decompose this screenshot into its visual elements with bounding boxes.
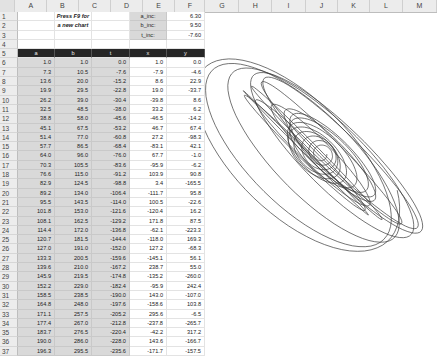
table-cell[interactable]: 317.2 (167, 328, 205, 337)
cell[interactable] (55, 40, 92, 49)
table-cell[interactable]: 219.5 (55, 272, 92, 281)
param-label[interactable]: t_inc: (130, 31, 167, 40)
table-cell[interactable]: -33.7 (167, 86, 205, 95)
column-header-j[interactable]: J (306, 0, 338, 12)
row-header[interactable]: 27 (0, 254, 18, 263)
table-cell[interactable]: -38.0 (92, 105, 130, 114)
column-header-i[interactable]: I (272, 0, 306, 12)
table-cell[interactable]: 0.0 (167, 58, 205, 67)
table-cell[interactable]: 64.0 (18, 151, 55, 160)
row-header[interactable]: 24 (0, 226, 18, 235)
table-cell[interactable]: 134.0 (55, 189, 92, 198)
column-header-m[interactable]: M (403, 0, 437, 12)
table-cell[interactable]: -91.2 (92, 170, 130, 179)
table-cell[interactable]: 51.4 (18, 133, 55, 142)
row-header[interactable]: 33 (0, 310, 18, 319)
cell[interactable] (92, 12, 130, 21)
table-cell[interactable]: 19.9 (18, 86, 55, 95)
table-cell[interactable]: -167.2 (92, 263, 130, 272)
table-cell[interactable]: -98.8 (92, 179, 130, 188)
table-cell[interactable]: 108.1 (18, 217, 55, 226)
table-cell[interactable]: -7.6 (92, 68, 130, 77)
table-cell[interactable]: -95.9 (130, 282, 167, 291)
table-cell[interactable]: -129.2 (92, 217, 130, 226)
table-cell[interactable]: 181.5 (55, 235, 92, 244)
row-header[interactable]: 18 (0, 170, 18, 179)
instruction-text[interactable]: Press F9 for (55, 12, 92, 21)
table-cell[interactable]: 19.0 (130, 86, 167, 95)
row-header[interactable]: 2 (0, 21, 18, 30)
row-header[interactable]: 19 (0, 179, 18, 188)
table-cell[interactable]: 46.7 (130, 124, 167, 133)
table-cell[interactable]: -159.6 (92, 254, 130, 263)
table-cell[interactable]: 55.0 (167, 263, 205, 272)
table-cell[interactable]: 76.6 (18, 170, 55, 179)
table-cell[interactable]: 143.0 (130, 291, 167, 300)
table-cell[interactable]: 57.7 (18, 142, 55, 151)
table-cell[interactable]: 172.0 (55, 226, 92, 235)
table-cell[interactable]: -111.7 (130, 189, 167, 198)
table-cell[interactable]: -121.6 (92, 207, 130, 216)
table-cell[interactable]: -107.0 (167, 291, 205, 300)
table-cell[interactable]: -22.6 (167, 198, 205, 207)
column-header-h[interactable]: H (239, 0, 271, 12)
table-cell[interactable]: -95.9 (130, 161, 167, 170)
table-cell[interactable]: 101.8 (18, 207, 55, 216)
table-cell[interactable]: 95.5 (18, 198, 55, 207)
table-cell[interactable]: -46.5 (130, 114, 167, 123)
row-header[interactable]: 26 (0, 244, 18, 253)
table-cell[interactable]: 153.0 (55, 207, 92, 216)
table-cell[interactable]: 171.8 (130, 217, 167, 226)
select-all-corner[interactable] (0, 0, 15, 12)
table-cell[interactable]: -53.2 (92, 124, 130, 133)
table-cell[interactable]: 115.0 (55, 170, 92, 179)
param-value[interactable]: 9.50 (167, 21, 205, 30)
table-cell[interactable]: 152.2 (18, 282, 55, 291)
row-header[interactable]: 15 (0, 142, 18, 151)
cell[interactable] (92, 40, 130, 49)
table-cell[interactable]: 8.6 (130, 77, 167, 86)
table-cell[interactable]: -237.8 (130, 319, 167, 328)
table-cell[interactable]: -106.4 (92, 189, 130, 198)
table-cell[interactable]: 267.0 (55, 319, 92, 328)
table-cell[interactable]: -174.8 (92, 272, 130, 281)
table-cell[interactable]: -7.9 (130, 68, 167, 77)
table-cell[interactable]: 86.5 (55, 142, 92, 151)
table-cell[interactable]: 295.6 (130, 310, 167, 319)
cell[interactable] (18, 31, 55, 40)
table-cell[interactable]: -145.1 (130, 254, 167, 263)
row-header[interactable]: 14 (0, 133, 18, 142)
table-cell[interactable]: 229.0 (55, 282, 92, 291)
table-cell[interactable]: 70.3 (18, 161, 55, 170)
row-header[interactable]: 28 (0, 263, 18, 272)
table-cell[interactable]: -190.0 (92, 291, 130, 300)
table-cell[interactable]: -120.4 (130, 207, 167, 216)
row-header[interactable]: 31 (0, 291, 18, 300)
table-cell[interactable]: 124.5 (55, 179, 92, 188)
table-cell[interactable]: 103.8 (167, 300, 205, 309)
row-header[interactable]: 32 (0, 300, 18, 309)
table-cell[interactable]: -157.5 (167, 347, 205, 356)
row-header[interactable]: 1 (0, 12, 18, 21)
table-cell[interactable]: -220.4 (92, 328, 130, 337)
table-cell[interactable]: -6.2 (167, 161, 205, 170)
table-cell[interactable]: 286.0 (55, 337, 92, 346)
table-cell[interactable]: -144.4 (92, 235, 130, 244)
row-header[interactable]: 9 (0, 86, 18, 95)
table-cell[interactable]: -4.6 (167, 68, 205, 77)
table-cell[interactable]: -39.8 (130, 96, 167, 105)
table-cell[interactable]: 238.5 (55, 291, 92, 300)
table-cell[interactable]: -171.7 (130, 347, 167, 356)
param-label[interactable]: b_inc: (130, 21, 167, 30)
table-cell[interactable]: 16.2 (167, 207, 205, 216)
table-cell[interactable]: -182.4 (92, 282, 130, 291)
table-cell[interactable]: -22.8 (92, 86, 130, 95)
table-cell[interactable]: 3.4 (130, 179, 167, 188)
table-cell[interactable]: -68.3 (167, 244, 205, 253)
table-cell[interactable]: -118.0 (130, 235, 167, 244)
cell[interactable] (92, 21, 130, 30)
table-cell[interactable]: 133.3 (18, 254, 55, 263)
table-cell[interactable]: -212.8 (92, 319, 130, 328)
table-cell[interactable]: 145.9 (18, 272, 55, 281)
table-cell[interactable]: 42.1 (167, 142, 205, 151)
